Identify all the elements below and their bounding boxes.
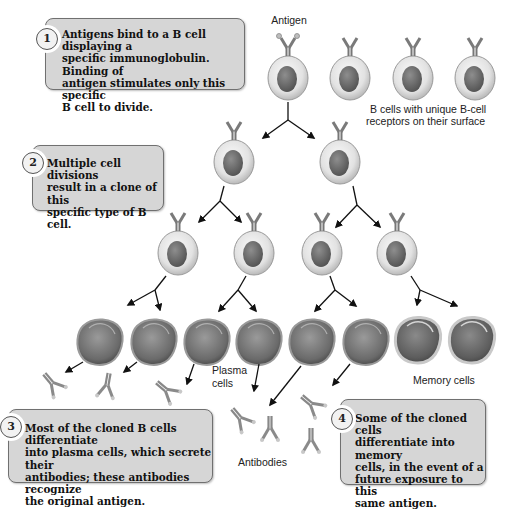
step-2-text-line: result in a clone of this <box>47 181 163 205</box>
step-3-text-line: the original antigen. <box>25 495 212 507</box>
plasma-cells-label-line2: cells <box>212 377 233 389</box>
step-3-text-line: antibodies; these antibodies recognize <box>25 471 212 495</box>
step-2-text-line: specific type of B cell. <box>47 206 163 230</box>
unique-receptors-label-line1: B cells with unique B-cell <box>370 103 486 115</box>
step-2-text-line: Multiple cell divisions <box>47 157 163 181</box>
step-3-text-line: into plasma cells, which secrete their <box>25 446 212 470</box>
antigen-label: Antigen <box>268 14 310 26</box>
step-1-text-line: B cell to divide. <box>62 101 244 113</box>
step-1-badge: 1 <box>36 28 58 50</box>
step-3-callout: Most of the cloned B cells differentiate… <box>8 409 213 483</box>
step-4-text-line: future exposure to this <box>355 473 485 497</box>
bcell-activated <box>268 34 308 101</box>
step-2-callout: Multiple cell divisions result in a clon… <box>32 145 164 211</box>
step-1-callout: Antigens bind to a B cell displaying a s… <box>45 18 245 90</box>
step-3-text-line: Most of the cloned B cells differentiate <box>25 422 212 446</box>
step-2-badge: 2 <box>22 152 44 174</box>
step-1-text-line: Antigens bind to a B cell displaying a <box>62 28 244 52</box>
step-4-text-line: cells, in the event of a <box>355 461 485 473</box>
step-1-text-line: specific immunoglobulin. Binding of <box>62 52 244 76</box>
memory-cells-label: Memory cells <box>413 374 475 386</box>
step-3-badge: 3 <box>0 416 22 438</box>
step-4-text-line: differentiate into memory <box>355 436 485 460</box>
unique-receptors-label-line2: receptors on their surface <box>366 115 485 127</box>
step-4-text-line: Some of the cloned cells <box>355 412 485 436</box>
antibodies-label: Antibodies <box>238 456 287 468</box>
step-1-text-line: antigen stimulates only this specific <box>62 77 244 101</box>
step-4-text-line: same antigen. <box>355 497 485 509</box>
step-4-badge: 4 <box>331 408 353 430</box>
plasma-cells-label-line1: Plasma <box>212 364 247 376</box>
step-4-callout: Some of the cloned cells differentiate i… <box>340 399 486 485</box>
